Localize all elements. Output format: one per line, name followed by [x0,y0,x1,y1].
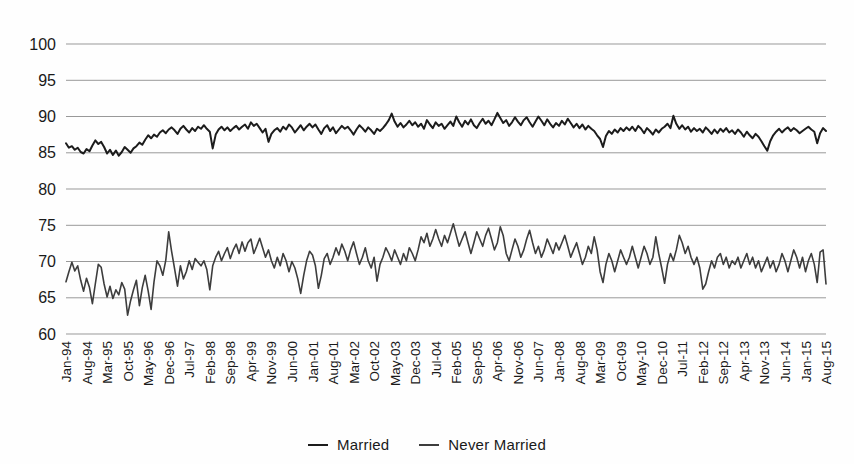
x-tick-label-Jan-94: Jan-94 [59,341,74,383]
y-tick-label-80: 80 [38,181,56,198]
line-chart-canvas: 1009590858075706560Jan-94Aug-94Mar-95Oct… [0,0,854,464]
x-tick-label-Nov-13: Nov-13 [757,341,772,385]
x-tick-label-Oct-09: Oct-09 [614,341,629,382]
legend-item-married: Married [308,436,389,453]
x-tick-label-Feb-98: Feb-98 [203,341,218,384]
x-tick-label-Apr-06: Apr-06 [490,341,505,382]
x-tick-label-Jan-08: Jan-08 [552,341,567,382]
y-tick-label-75: 75 [38,217,56,234]
series-line-never-married [66,224,826,315]
x-tick-label-Jan-01: Jan-01 [306,341,321,382]
x-tick-label-Oct-02: Oct-02 [367,341,382,382]
x-tick-label-Sep-12: Sep-12 [716,341,731,385]
y-tick-label-85: 85 [38,144,56,161]
x-tick-label-Aug-01: Aug-01 [326,341,341,385]
x-tick-label-Dec-96: Dec-96 [162,341,177,385]
x-tick-label-Jul-11: Jul-11 [675,341,690,377]
x-tick-label-Jan-15: Jan-15 [799,341,814,382]
x-tick-label-Jun-14: Jun-14 [778,341,793,383]
x-tick-label-Jun-07: Jun-07 [531,341,546,382]
legend-item-never-married: Never Married [419,436,546,453]
chart-legend: Married Never Married [0,436,854,453]
x-tick-label-Aug-15: Aug-15 [819,341,834,385]
x-tick-label-Mar-95: Mar-95 [100,341,115,384]
x-tick-label-May-03: May-03 [388,341,403,386]
x-tick-label-Apr-13: Apr-13 [737,341,752,382]
x-tick-label-Mar-09: Mar-09 [593,341,608,384]
x-tick-label-Sep-05: Sep-05 [470,341,485,385]
x-tick-label-Jul-04: Jul-04 [429,341,444,378]
x-tick-label-May-10: May-10 [634,341,649,386]
never-married-line-swatch [419,444,439,446]
y-tick-label-90: 90 [38,108,56,125]
y-tick-label-60: 60 [38,326,56,343]
married-line-swatch [308,444,328,446]
x-tick-label-Dec-03: Dec-03 [408,341,423,385]
legend-label-never-married: Never Married [448,436,546,453]
series-line-married [66,113,826,156]
y-tick-label-65: 65 [38,289,56,306]
x-tick-label-Aug-94: Aug-94 [80,341,95,385]
x-tick-label-Dec-10: Dec-10 [655,341,670,385]
x-tick-label-Jun-00: Jun-00 [285,341,300,382]
chart-figure: 1009590858075706560Jan-94Aug-94Mar-95Oct… [0,0,854,464]
x-tick-label-Feb-12: Feb-12 [696,341,711,384]
x-tick-label-Nov-99: Nov-99 [264,341,279,385]
y-tick-label-70: 70 [38,253,56,270]
x-tick-label-Aug-08: Aug-08 [573,341,588,385]
y-tick-label-95: 95 [38,72,56,89]
x-tick-label-Mar-02: Mar-02 [347,341,362,384]
legend-label-married: Married [337,436,389,453]
x-tick-label-Feb-05: Feb-05 [449,341,464,384]
x-tick-label-Sep-98: Sep-98 [223,341,238,385]
y-tick-label-100: 100 [29,36,56,53]
x-tick-label-May-96: May-96 [141,341,156,386]
x-tick-label-Oct-95: Oct-95 [121,341,136,382]
x-tick-label-Apr-99: Apr-99 [244,341,259,382]
x-tick-label-Nov-06: Nov-06 [511,341,526,385]
x-tick-label-Jul-97: Jul-97 [182,341,197,378]
